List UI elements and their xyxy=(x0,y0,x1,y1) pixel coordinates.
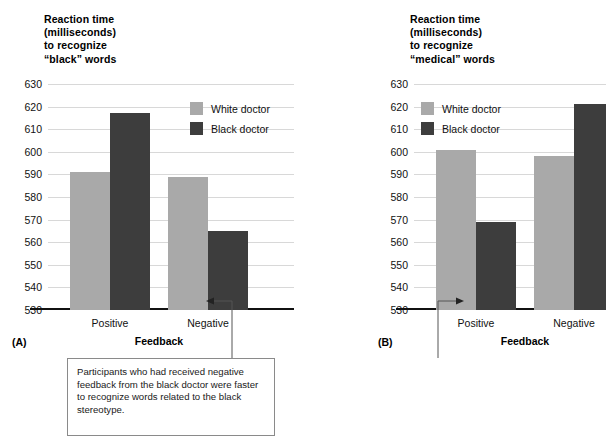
chart-panel-a: Reaction time (milliseconds) to recogniz… xyxy=(0,0,303,441)
chart-a-callout-box: Participants who had received negative f… xyxy=(67,358,275,436)
chart-b-callout-arrow-icon xyxy=(303,0,606,441)
chart-panel-b: Reaction time (milliseconds) to recogniz… xyxy=(303,0,606,441)
